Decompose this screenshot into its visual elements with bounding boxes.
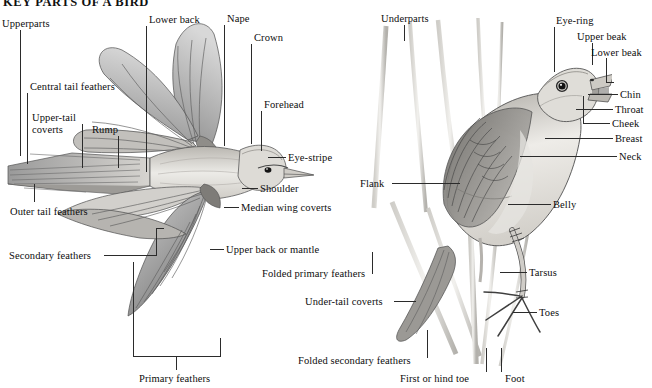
bracket-primary-feathers-right	[220, 338, 221, 357]
leader-median-wing-coverts	[224, 207, 239, 208]
leader-under-tail-coverts	[394, 301, 416, 302]
label-upper-tail-coverts: Upper-tail coverts	[32, 112, 80, 136]
leader-cheek-v	[583, 96, 584, 124]
label-chin: Chin	[620, 89, 641, 100]
label-neck: Neck	[619, 151, 642, 162]
label-crown: Crown	[254, 32, 283, 43]
bracket-primary-feathers-bottom	[133, 356, 221, 357]
label-secondary-feathers: Secondary feathers	[9, 250, 91, 261]
leader-upper-back-or-mantle	[210, 249, 224, 250]
flying-bird-illustration	[0, 18, 330, 378]
label-toes: Toes	[539, 307, 559, 318]
bracket-secondary-feathers	[156, 228, 157, 256]
bird-anatomy-diagram: KEY PARTS OF A BIRD	[0, 0, 652, 388]
label-lower-back: Lower back	[149, 14, 200, 25]
leader-eye-ring	[554, 27, 555, 72]
leader-primary-feathers	[176, 356, 177, 370]
leader-rump	[118, 136, 119, 168]
leader-crown	[251, 44, 252, 144]
label-breast: Breast	[615, 133, 642, 144]
label-median-wing-coverts: Median wing coverts	[241, 202, 332, 213]
label-eye-stripe: Eye-stripe	[288, 152, 332, 163]
leader-throat	[576, 109, 613, 110]
label-upperparts: Upperparts	[2, 18, 50, 29]
label-central-tail-feathers: Central tail feathers	[30, 81, 115, 92]
label-nape: Nape	[227, 13, 250, 24]
leader-first-or-hind-toe	[486, 348, 487, 372]
leader-secondary-feathers	[104, 255, 156, 256]
leader-folded-primary-feathers	[372, 252, 373, 274]
leader-tarsus	[500, 272, 527, 273]
leader-lower-beak	[606, 58, 607, 82]
label-primary-feathers: Primary feathers	[139, 373, 210, 384]
label-outer-tail-feathers: Outer tail feathers	[10, 206, 88, 217]
bracket-secondary-feathers-top	[156, 228, 164, 229]
label-under-tail-coverts: Under-tail coverts	[305, 296, 383, 307]
leader-lower-beak-h	[606, 82, 614, 83]
label-eye-ring: Eye-ring	[556, 15, 594, 26]
leader-central-tail-feathers	[27, 93, 28, 164]
label-tarsus: Tarsus	[529, 267, 557, 278]
leader-shoulder	[242, 188, 258, 189]
label-throat: Throat	[615, 104, 644, 115]
label-first-or-hind-toe: First or hind toe	[400, 373, 469, 384]
leader-upper-tail-coverts	[82, 124, 83, 168]
label-shoulder: Shoulder	[260, 183, 299, 194]
label-cheek: Cheek	[612, 118, 639, 129]
leader-nape	[224, 25, 225, 146]
label-upper-back-or-mantle: Upper back or mantle	[226, 244, 319, 255]
leader-neck	[520, 156, 617, 157]
leader-outer-tail-feathers	[34, 184, 35, 202]
label-rump: Rump	[92, 124, 118, 135]
tail-group	[8, 153, 150, 194]
leader-flank	[392, 183, 460, 184]
leader-folded-secondary-feathers	[427, 330, 428, 358]
leader-upperparts	[20, 30, 21, 156]
leader-toes	[513, 312, 537, 313]
leader-underparts	[404, 25, 405, 41]
label-upper-beak: Upper beak	[577, 31, 627, 42]
label-underparts: Underparts	[381, 13, 429, 24]
bracket-primary-feathers-left	[133, 262, 134, 357]
leader-eye-stripe	[268, 157, 286, 158]
label-belly: Belly	[553, 199, 576, 210]
leader-belly	[508, 204, 551, 205]
leader-cheek	[583, 123, 610, 124]
label-foot: Foot	[505, 373, 525, 384]
label-flank: Flank	[360, 178, 384, 189]
label-folded-primary-feathers: Folded primary feathers	[262, 268, 365, 279]
label-folded-secondary-feathers: Folded secondary feathers	[298, 355, 411, 366]
page-title: KEY PARTS OF A BIRD	[3, 0, 149, 10]
leader-lower-back	[146, 26, 147, 172]
label-lower-beak: Lower beak	[591, 47, 642, 58]
leader-chin	[588, 94, 618, 95]
label-forehead: Forehead	[264, 99, 304, 110]
leader-breast	[545, 138, 613, 139]
leader-foot	[501, 348, 502, 372]
leader-forehead	[261, 111, 262, 151]
perched-bird-illustration	[352, 12, 612, 382]
